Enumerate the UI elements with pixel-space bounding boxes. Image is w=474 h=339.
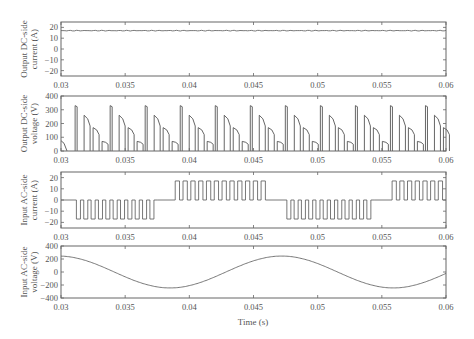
output-dc-voltage-subplot: 40030020010000.030.0350.040.0450.050.055… bbox=[19, 91, 453, 165]
x-tick-label: 0.06 bbox=[439, 232, 454, 242]
y-tick-label: 0 bbox=[54, 44, 58, 54]
y-tick-label: 20 bbox=[50, 22, 59, 32]
y-tick-label: −20 bbox=[45, 217, 58, 227]
x-tick-label: 0.035 bbox=[116, 80, 135, 90]
y-axis-label: voltage (V) bbox=[29, 251, 39, 292]
y-axis-label: Output DC-side bbox=[19, 20, 29, 77]
x-tick-label: 0.045 bbox=[244, 232, 263, 242]
y-tick-label: −10 bbox=[45, 55, 58, 65]
x-tick-label: 0.05 bbox=[310, 232, 325, 242]
y-tick-label: 20 bbox=[50, 173, 59, 183]
y-tick-label: −20 bbox=[45, 66, 58, 76]
x-tick-label: 0.04 bbox=[182, 155, 198, 165]
output-dc-voltage-line bbox=[61, 106, 449, 151]
y-axis-label: Input AC-side bbox=[19, 175, 29, 226]
input-ac-current-subplot: 20100−10−200.030.0350.040.0450.050.0550.… bbox=[19, 172, 453, 242]
y-axis-label: current (A) bbox=[29, 180, 39, 220]
y-tick-label: 300 bbox=[45, 105, 58, 115]
y-tick-label: 10 bbox=[50, 33, 59, 43]
y-tick-label: 200 bbox=[45, 254, 58, 264]
x-tick-label: 0.04 bbox=[182, 80, 198, 90]
x-tick-label: 0.035 bbox=[116, 155, 135, 165]
output-dc-current-subplot: 20100−10−200.030.0350.040.0450.050.0550.… bbox=[19, 20, 453, 90]
x-tick-label: 0.035 bbox=[116, 302, 135, 312]
x-tick-label: 0.05 bbox=[310, 80, 325, 90]
axes-frame bbox=[61, 246, 446, 298]
y-tick-label: 0 bbox=[54, 195, 58, 205]
x-tick-label: 0.055 bbox=[372, 80, 391, 90]
x-tick-label: 0.05 bbox=[310, 155, 325, 165]
input-ac-voltage-subplot: 4002000−200−4000.030.0350.040.0450.050.0… bbox=[19, 241, 453, 312]
x-tick-label: 0.03 bbox=[54, 302, 69, 312]
x-tick-label: 0.06 bbox=[439, 302, 454, 312]
x-tick-label: 0.04 bbox=[182, 232, 198, 242]
x-tick-label: 0.045 bbox=[244, 155, 263, 165]
y-tick-label: 200 bbox=[45, 119, 58, 129]
y-tick-label: −200 bbox=[40, 280, 58, 290]
y-tick-label: −10 bbox=[45, 206, 58, 216]
x-tick-label: 0.04 bbox=[182, 302, 198, 312]
y-tick-label: 0 bbox=[54, 267, 58, 277]
y-tick-label: 10 bbox=[50, 184, 59, 194]
y-axis-label: current (A) bbox=[29, 29, 39, 69]
y-axis-label: voltage (V) bbox=[29, 103, 39, 144]
x-tick-label: 0.06 bbox=[439, 155, 454, 165]
x-tick-label: 0.03 bbox=[54, 80, 69, 90]
y-tick-label: 100 bbox=[45, 132, 58, 142]
x-tick-label: 0.05 bbox=[310, 302, 325, 312]
input-ac-current-line bbox=[61, 181, 446, 219]
figure: 20100−10−200.030.0350.040.0450.050.0550.… bbox=[0, 0, 474, 339]
x-tick-label: 0.06 bbox=[439, 80, 454, 90]
x-tick-label: 0.03 bbox=[54, 155, 69, 165]
y-axis-label: Output DC-side bbox=[19, 95, 29, 152]
y-tick-label: 400 bbox=[45, 241, 58, 251]
y-axis-label: Input AC-side bbox=[19, 247, 29, 298]
x-tick-label: 0.045 bbox=[244, 302, 263, 312]
x-axis-label: Time (s) bbox=[238, 317, 268, 327]
input-ac-voltage-line bbox=[61, 256, 446, 288]
x-tick-label: 0.045 bbox=[244, 80, 263, 90]
x-tick-label: 0.055 bbox=[372, 302, 391, 312]
y-tick-label: 400 bbox=[45, 91, 58, 101]
output-dc-current-line bbox=[61, 30, 446, 31]
x-tick-label: 0.055 bbox=[372, 155, 391, 165]
x-tick-label: 0.055 bbox=[372, 232, 391, 242]
x-tick-label: 0.035 bbox=[116, 232, 135, 242]
